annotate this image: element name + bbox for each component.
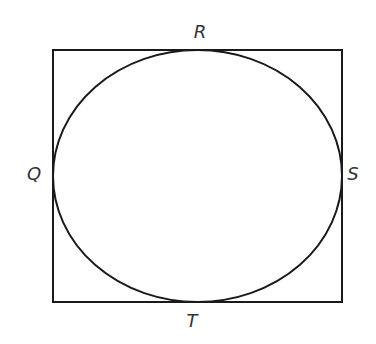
label-s: S	[347, 163, 358, 184]
inscribed-ellipse	[53, 50, 342, 302]
bounding-rectangle	[53, 50, 342, 302]
label-r: R	[194, 21, 207, 42]
diagram-canvas: R Q S T	[0, 0, 376, 344]
label-q: Q	[27, 163, 41, 184]
label-t: T	[187, 310, 200, 331]
